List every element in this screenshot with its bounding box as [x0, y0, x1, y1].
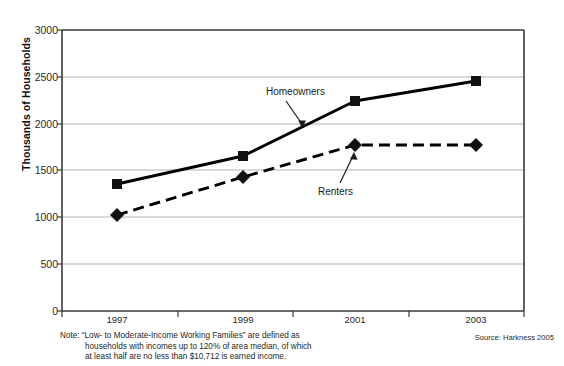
homeowners-marker-2001: [350, 96, 360, 106]
homeowners-marker-2003: [471, 76, 481, 86]
homeowners-label: Homeowners: [266, 86, 325, 97]
renters-marker-1999: [236, 170, 250, 184]
renters-marker-2001: [348, 138, 362, 152]
annotation-arrows: [286, 101, 358, 183]
chart-footnote: Note: “Low- to Moderate-Income Working F…: [60, 331, 312, 363]
chart-figure: Thousands of Households 3000 2500 2000 1…: [0, 0, 564, 366]
renters-line: [117, 145, 476, 215]
homeowners-marker-1999: [238, 151, 248, 161]
plot-frame: [62, 30, 524, 311]
footnote-line-1: Note: “Low- to Moderate-Income Working F…: [60, 331, 300, 340]
renters-marker-2003: [469, 138, 483, 152]
renters-annotation-arrow: [340, 152, 358, 183]
renters-series: [110, 138, 483, 222]
footnote-line-3: at least half are no less than $10,712 i…: [60, 352, 312, 363]
homeowners-marker-1997: [112, 179, 122, 189]
plot-area: [0, 0, 564, 366]
x-axis-ticks: [62, 311, 524, 317]
chart-source: Source: Harkness 2005: [475, 333, 554, 342]
footnote-line-2: households with incomes up to 120% of ar…: [60, 342, 312, 353]
renters-label: Renters: [318, 186, 353, 197]
renters-marker-1997: [110, 208, 124, 222]
gridlines: [62, 77, 524, 264]
